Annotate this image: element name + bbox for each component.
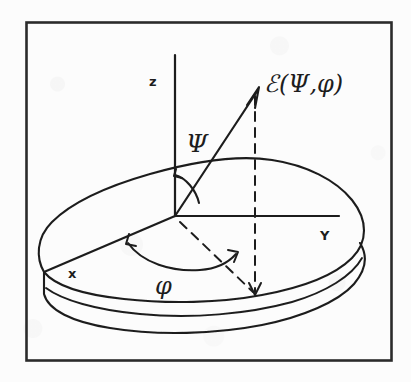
slab-top-face-outline bbox=[39, 158, 364, 302]
psi-angle-label: Ψ bbox=[186, 129, 209, 158]
ground-projection-dashed bbox=[180, 222, 253, 292]
coordinate-system-diagram: z Y x Ψ φ ℰ(Ψ,φ) bbox=[0, 0, 411, 382]
slab-side-wall bbox=[44, 243, 365, 333]
figure-canvas: z Y x Ψ φ ℰ(Ψ,φ) bbox=[0, 0, 411, 382]
slab-bottom-rim bbox=[46, 258, 362, 316]
phi-angle-arc bbox=[128, 243, 236, 270]
y-axis-label: Y bbox=[319, 228, 330, 243]
field-vector-label: ℰ(Ψ,φ) bbox=[264, 70, 343, 98]
phi-angle-label: φ bbox=[155, 272, 172, 300]
z-axis-label: z bbox=[149, 74, 157, 89]
x-axis-label: x bbox=[68, 266, 77, 281]
psi-arc-arrowhead bbox=[174, 169, 182, 178]
